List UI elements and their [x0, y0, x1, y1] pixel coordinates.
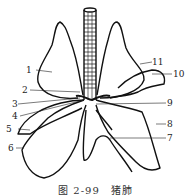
label-10: 10	[173, 70, 184, 79]
label-3: 3	[12, 100, 18, 109]
label-9: 9	[167, 99, 173, 108]
right-apical-lobe	[97, 22, 144, 98]
accessory-lobe	[83, 110, 132, 172]
label-2: 2	[22, 86, 28, 95]
right-diaphragmatic-lobe	[96, 100, 160, 170]
label-7: 7	[167, 134, 173, 143]
label-6: 6	[8, 144, 14, 153]
label-4: 4	[12, 112, 18, 121]
label-5: 5	[6, 125, 12, 134]
left-apical-lobe	[38, 22, 83, 98]
figure-caption: 图 2-99 猪肺	[0, 182, 191, 196]
trachea	[84, 8, 96, 100]
label-8: 8	[167, 120, 173, 129]
label-1: 1	[26, 66, 32, 75]
label-11: 11	[152, 58, 163, 67]
left-diaphragmatic-lobe	[22, 100, 86, 178]
pig-lung-diagram	[0, 0, 191, 196]
